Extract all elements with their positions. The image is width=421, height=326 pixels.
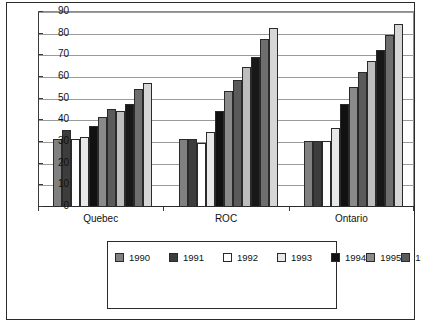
bar <box>206 132 215 206</box>
bar <box>179 139 188 206</box>
y-axis-tick-label: 50 <box>43 93 69 103</box>
x-axis-tick-mark <box>289 207 290 211</box>
bar <box>313 141 322 206</box>
bar <box>304 141 313 206</box>
y-axis-tick-mark <box>39 76 43 77</box>
legend-item-1993[interactable]: 1993 <box>277 248 331 266</box>
bar <box>107 109 116 207</box>
bar-group-roc <box>179 12 278 206</box>
bar <box>340 104 349 206</box>
bar <box>197 143 206 206</box>
bar <box>80 137 89 206</box>
bar <box>89 126 98 206</box>
bar <box>331 128 340 206</box>
y-axis-tick-mark <box>39 206 43 207</box>
legend-swatch-icon <box>169 253 178 262</box>
legend-label: 1990 <box>129 253 150 262</box>
y-axis-tick-label: 20 <box>43 158 69 168</box>
legend-label: 1994 <box>345 253 366 262</box>
y-axis-tick-label: 90 <box>43 6 69 16</box>
bar <box>71 139 80 206</box>
bar <box>215 111 224 206</box>
y-axis-tick-label: 40 <box>43 114 69 124</box>
plot-area <box>38 11 414 207</box>
y-axis-tick-label: 0 <box>43 201 69 211</box>
legend-item-1992[interactable]: 1992 <box>223 248 277 266</box>
y-axis-tick-mark <box>39 163 43 164</box>
bar <box>367 61 376 206</box>
x-axis-label-roc: ROC <box>163 213 288 224</box>
x-axis-tick-mark <box>163 207 164 211</box>
y-axis-tick-mark <box>39 11 43 12</box>
legend-item-1991[interactable]: 1991 <box>169 248 223 266</box>
legend-swatch-icon <box>331 253 340 262</box>
bar <box>224 91 233 206</box>
legend-swatch-icon <box>223 253 232 262</box>
bar <box>269 28 278 206</box>
legend-item-1995[interactable]: 1995 <box>366 248 401 266</box>
legend-item-1994[interactable]: 1994 <box>331 248 366 266</box>
bar <box>116 111 125 206</box>
bar <box>260 39 269 206</box>
bar <box>188 139 197 206</box>
bar-group-quebec <box>53 12 152 206</box>
y-axis-tick-mark <box>39 33 43 34</box>
bar <box>385 35 394 206</box>
y-axis-tick-label: 60 <box>43 71 69 81</box>
plot-right-edge <box>413 12 414 207</box>
y-axis-tick-mark <box>39 119 43 120</box>
bar <box>53 139 62 206</box>
y-axis-tick-label: 70 <box>43 49 69 59</box>
legend-label: 1995 <box>380 253 401 262</box>
y-axis-tick-mark <box>39 54 43 55</box>
y-axis-tick-mark <box>39 98 43 99</box>
bar <box>251 57 260 207</box>
legend-item-1996[interactable]: 1996 <box>401 248 421 266</box>
y-axis-tick-label: 80 <box>43 28 69 38</box>
x-axis-tick-mark <box>413 207 414 211</box>
bar <box>322 141 331 206</box>
bars-layer <box>40 12 413 206</box>
bar <box>98 117 107 206</box>
y-axis-tick-mark <box>39 184 43 185</box>
legend-label: 1993 <box>291 253 312 262</box>
bar <box>394 24 403 206</box>
x-axis-label-ontario: Ontario <box>289 213 414 224</box>
bar <box>143 83 152 207</box>
x-axis-line <box>39 206 414 207</box>
bar <box>242 67 251 206</box>
chart-frame: 9080706050403020100 QuebecROCOntario 199… <box>6 2 415 320</box>
legend-label: 1991 <box>183 253 204 262</box>
y-axis-tick-mark <box>39 141 43 142</box>
y-axis-tick-label: 30 <box>43 136 69 146</box>
bar <box>358 72 367 206</box>
x-axis-tick-mark <box>38 207 39 211</box>
legend-label: 1992 <box>237 253 258 262</box>
bar <box>134 89 143 206</box>
legend-label: 1996 <box>415 253 421 262</box>
legend-swatch-icon <box>277 253 286 262</box>
bar <box>125 104 134 206</box>
plot-wrapper: 9080706050403020100 QuebecROCOntario <box>38 11 414 207</box>
bar <box>349 87 358 206</box>
legend-item-1990[interactable]: 1990 <box>115 248 169 266</box>
legend-grid: 1990199119921993199419951996199719981999… <box>115 248 331 266</box>
bar <box>233 80 242 206</box>
x-axis-label-quebec: Quebec <box>38 213 163 224</box>
bar-group-ontario <box>304 12 403 206</box>
bar-chart: 9080706050403020100 QuebecROCOntario 199… <box>0 0 421 326</box>
legend-swatch-icon <box>366 253 375 262</box>
legend-swatch-icon <box>115 253 124 262</box>
bar <box>376 50 385 206</box>
y-axis-tick-label: 10 <box>43 179 69 189</box>
legend: 1990199119921993199419951996199719981999… <box>107 241 337 309</box>
legend-swatch-icon <box>401 253 410 262</box>
